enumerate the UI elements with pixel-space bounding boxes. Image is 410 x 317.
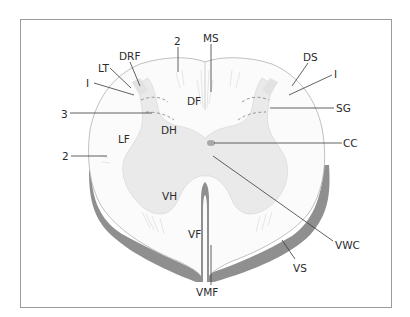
label-cc: CC [343, 137, 358, 149]
label-ms: MS [203, 32, 219, 44]
central-canal [207, 140, 215, 146]
spinal-cord-diagram: MS 2 DRF LT I 3 DF DH LF 2 VH VF VMF DS … [0, 0, 410, 317]
label-vwc: VWC [335, 239, 360, 251]
label-sg: SG [336, 102, 351, 114]
ventral-fissure-gap [203, 195, 207, 282]
label-1-left: I [86, 77, 89, 89]
label-vmf: VMF [196, 286, 218, 298]
label-df: DF [187, 95, 201, 107]
label-vf: VF [188, 228, 201, 240]
label-lt: LT [98, 62, 109, 74]
label-dh: DH [161, 124, 177, 136]
diagram-stage: MS 2 DRF LT I 3 DF DH LF 2 VH VF VMF DS … [0, 0, 410, 317]
label-vs: VS [293, 262, 307, 274]
label-vh: VH [162, 190, 177, 202]
label-drf: DRF [119, 50, 140, 62]
label-2-left: 2 [62, 150, 69, 162]
label-2-top: 2 [174, 35, 181, 47]
label-ds: DS [303, 51, 318, 63]
label-3: 3 [61, 108, 68, 120]
label-lf: LF [118, 133, 130, 145]
label-1-right: I [334, 68, 337, 80]
